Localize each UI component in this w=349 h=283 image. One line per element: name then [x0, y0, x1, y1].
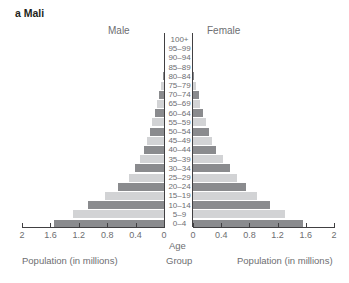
age-group-label: 55–59	[165, 118, 194, 127]
age-group-label: 30–34	[165, 164, 194, 173]
male-label: Male	[108, 25, 130, 36]
female-bar	[193, 155, 223, 163]
age-group-label: 60–64	[165, 109, 194, 118]
x-tick-label: 1.6	[300, 230, 313, 240]
female-bar	[193, 164, 230, 172]
male-bar	[88, 201, 164, 209]
female-bar	[193, 192, 257, 200]
female-bar	[193, 146, 216, 154]
age-group-label: 90–94	[165, 53, 194, 62]
x-tick-label: 0	[190, 230, 195, 240]
x-tick	[249, 223, 250, 228]
age-group-label: 50–54	[165, 127, 194, 136]
age-group-label: 80–84	[165, 72, 194, 81]
x-tick-label: 2	[331, 230, 336, 240]
x-tick	[107, 223, 108, 228]
x-tick-label: 0	[161, 230, 166, 240]
x-tick	[193, 223, 194, 228]
female-bar	[193, 100, 200, 108]
x-tick-label: 2	[19, 230, 24, 240]
female-bar	[193, 174, 237, 182]
x-tick	[79, 223, 80, 228]
x-tick-label: 1.6	[44, 230, 57, 240]
male-bar	[135, 164, 164, 172]
male-bar	[152, 118, 164, 126]
age-axis-column: 100+95–9990–9485–8980–8475–7970–7465–696…	[164, 33, 193, 227]
age-group-label: 95–99	[165, 44, 194, 53]
x-tick	[221, 223, 222, 228]
age-group-label: 15–19	[165, 191, 194, 200]
male-bar	[118, 183, 164, 191]
x-tick	[334, 223, 335, 228]
female-bar	[193, 210, 285, 218]
x-tick-label: 1.2	[73, 230, 86, 240]
x-tick	[22, 223, 23, 228]
male-bar	[129, 174, 164, 182]
male-bar	[105, 192, 164, 200]
x-tick-label: 1.2	[271, 230, 284, 240]
female-bar	[193, 109, 203, 117]
x-tick	[164, 223, 165, 228]
age-group-label: 10–14	[165, 201, 194, 210]
age-group-label: 35–39	[165, 155, 194, 164]
female-bar	[193, 118, 206, 126]
age-group-label: 20–24	[165, 182, 194, 191]
female-bar	[193, 128, 209, 136]
male-bar	[144, 146, 164, 154]
age-group-label: 70–74	[165, 90, 194, 99]
male-bar	[155, 109, 164, 117]
female-bar	[193, 201, 270, 209]
x-tick-label: 0.4	[215, 230, 228, 240]
age-group-label: 75–79	[165, 81, 194, 90]
x-tick-label: 0.8	[243, 230, 256, 240]
male-bar	[147, 137, 164, 145]
age-group-label: 40–44	[165, 145, 194, 154]
male-bar	[150, 128, 164, 136]
female-bar	[193, 183, 246, 191]
age-group-label: 5–9	[165, 210, 194, 219]
male-bar	[140, 155, 164, 163]
male-bar	[73, 210, 164, 218]
age-group-label: 25–29	[165, 173, 194, 182]
center-title-group: Group	[166, 255, 192, 266]
age-group-label: 100+	[165, 35, 194, 44]
x-tick	[50, 223, 51, 228]
right-axis-title: Population (in millions)	[237, 255, 333, 266]
left-axis-line	[22, 227, 165, 228]
age-group-label: 85–89	[165, 63, 194, 72]
age-group-label: 45–49	[165, 136, 194, 145]
left-axis-title: Population (in millions)	[22, 255, 118, 266]
x-tick	[136, 223, 137, 228]
right-axis-line	[193, 227, 335, 228]
age-group-label: 0–4	[165, 219, 194, 228]
x-tick-label: 0.8	[101, 230, 114, 240]
center-title-age: Age	[169, 240, 186, 251]
x-tick-label: 0.4	[129, 230, 142, 240]
x-tick	[278, 223, 279, 228]
age-group-label: 65–69	[165, 99, 194, 108]
female-bar	[193, 137, 212, 145]
x-tick	[306, 223, 307, 228]
female-label: Female	[207, 25, 240, 36]
chart-title: a Mali	[15, 7, 44, 19]
male-bar	[157, 100, 164, 108]
